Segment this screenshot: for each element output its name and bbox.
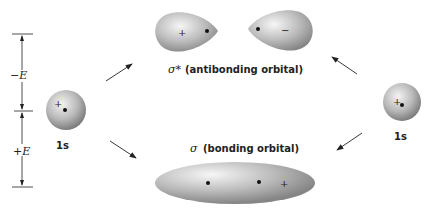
right-1s-label: 1s <box>394 131 407 142</box>
antibonding-label: (antibonding orbital) <box>185 64 303 75</box>
molecular-orbital-diagram: −E +E + 1s + 1s + − σ* (antibonding orbi… <box>0 0 430 210</box>
energy-axis: −E +E <box>10 34 33 187</box>
arrow-up-right-icon <box>106 64 132 81</box>
antibonding-left-sign: + <box>178 27 186 38</box>
left-1s-orbital: + 1s <box>46 90 86 151</box>
bonding-symbol: σ <box>190 142 198 155</box>
plus-energy-label: +E <box>13 145 30 158</box>
bonding-sign: + <box>280 178 288 189</box>
right-1s-orbital: + 1s <box>383 83 421 142</box>
bonding-label: (bonding orbital) <box>203 143 299 154</box>
minus-energy-label: −E <box>10 69 27 82</box>
antibonding-orbital: + − σ* (antibonding orbital) <box>155 10 313 76</box>
bonding-orbital: + σ (bonding orbital) <box>155 142 315 204</box>
antibonding-symbol: σ* <box>168 63 182 76</box>
left-1s-label: 1s <box>56 140 69 151</box>
arrow-down-right-icon <box>110 141 136 158</box>
arrow-up-left-icon <box>332 57 357 74</box>
left-1s-sign: + <box>54 98 62 109</box>
antibonding-right-sign: − <box>281 25 289 36</box>
arrow-down-left-icon <box>337 133 362 150</box>
